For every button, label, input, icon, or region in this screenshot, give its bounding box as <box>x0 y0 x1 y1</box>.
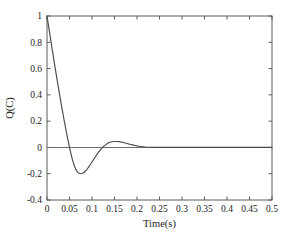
y-axis-title: Q(C) <box>4 97 16 119</box>
data-series-qc <box>47 16 272 174</box>
x-tick-label: 0.15 <box>106 204 123 214</box>
y-axis-tick-labels: -0.4-0.200.20.40.60.81 <box>27 11 42 205</box>
y-tick-label: 0.8 <box>30 38 42 48</box>
y-tick-label: -0.4 <box>27 195 42 205</box>
x-axis-title: Time(s) <box>143 218 176 230</box>
y-tick-label: 0.6 <box>30 64 42 74</box>
y-tick-label: -0.2 <box>27 169 42 179</box>
x-tick-label: 0.3 <box>176 204 188 214</box>
x-tick-label: 0.45 <box>241 204 258 214</box>
chart-figure: 00.050.10.150.20.250.30.350.40.450.5 -0.… <box>0 0 288 238</box>
x-tick-label: 0 <box>45 204 50 214</box>
x-tick-label: 0.35 <box>196 204 213 214</box>
x-tick-label: 0.2 <box>131 204 143 214</box>
x-tick-label: 0.1 <box>86 204 98 214</box>
x-axis-ticks <box>47 16 272 200</box>
y-tick-label: 0.2 <box>30 116 42 126</box>
y-tick-label: 1 <box>37 11 42 21</box>
x-tick-label: 0.4 <box>221 204 233 214</box>
plot-frame <box>47 16 272 200</box>
x-axis-tick-labels: 00.050.10.150.20.250.30.350.40.450.5 <box>45 204 279 214</box>
y-tick-label: 0.4 <box>30 90 42 100</box>
chart-canvas: 00.050.10.150.20.250.30.350.40.450.5 -0.… <box>0 0 288 238</box>
y-axis-ticks <box>47 16 272 200</box>
axes-box <box>47 16 272 200</box>
x-tick-label: 0.5 <box>266 204 278 214</box>
x-tick-label: 0.25 <box>151 204 168 214</box>
y-tick-label: 0 <box>37 143 42 153</box>
x-tick-label: 0.05 <box>61 204 78 214</box>
